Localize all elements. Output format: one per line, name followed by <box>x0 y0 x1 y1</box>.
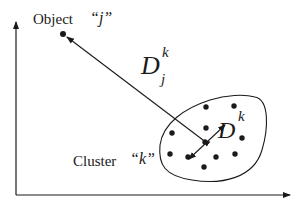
diagram-graphics <box>0 0 305 204</box>
distance-object-base: D <box>141 51 160 80</box>
cluster-spread-base: D <box>218 117 235 143</box>
distance-object-superscript: k <box>162 45 169 60</box>
object-label: Object <box>33 12 73 27</box>
object-point <box>60 31 66 37</box>
diagram-canvas: Object “j” Cluster “k” D k j D k <box>0 0 305 204</box>
cluster-boundary <box>160 95 267 181</box>
object-name: “j” <box>90 10 112 26</box>
distance-object-label: D k j <box>141 53 160 79</box>
distance-arrow-object <box>67 37 203 140</box>
cluster-spread-superscript: k <box>238 109 245 124</box>
cluster-spread-label: D k <box>218 118 235 142</box>
distance-object-subscript: j <box>161 72 165 87</box>
cluster-label: Cluster <box>73 154 116 169</box>
cluster-name: “k” <box>130 151 155 167</box>
